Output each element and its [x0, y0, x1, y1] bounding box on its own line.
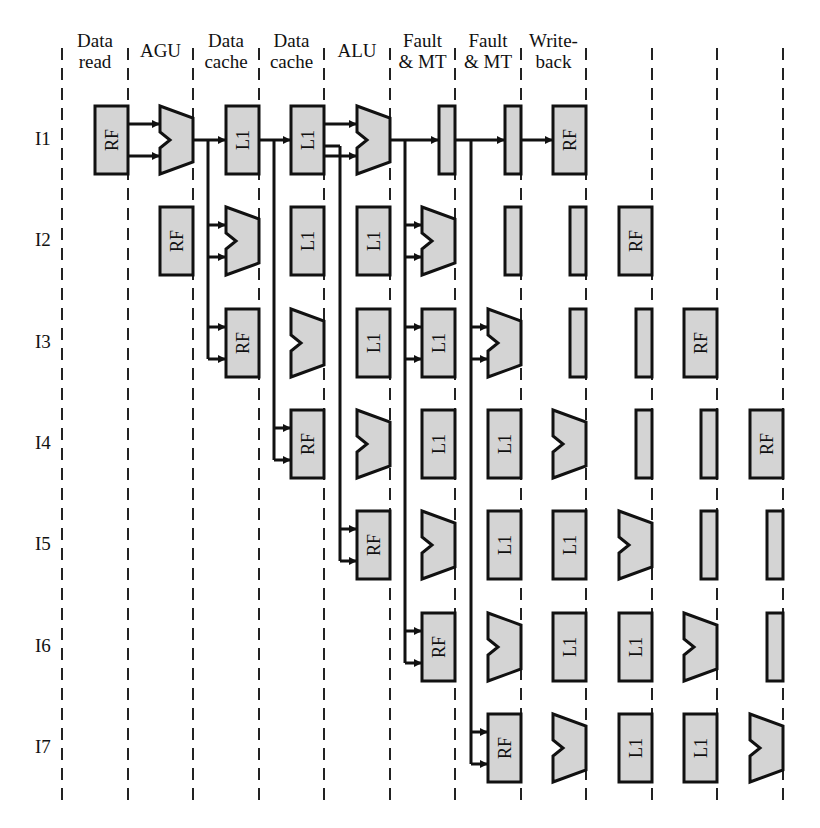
- alu-block: [750, 714, 783, 782]
- l1-cache-block: L1: [422, 309, 455, 377]
- stage-header-line2: back: [515, 51, 592, 72]
- pipeline-register-block: [701, 511, 717, 579]
- instruction-label-i7: I7: [35, 736, 51, 758]
- pipeline-register-block: [439, 106, 455, 174]
- l1-cache-block: L1: [291, 207, 324, 275]
- pipeline-register-block: [505, 106, 521, 174]
- l1-cache-block: L1: [422, 410, 455, 478]
- block-label: L1: [560, 535, 580, 555]
- instruction-label-i3: I3: [35, 331, 51, 353]
- pipeline-graphics: RFL1L1RFRFL1L1RFRFL1L1RFRFL1L1RFRFL1L1RF…: [0, 0, 820, 828]
- register-file-block: RF: [422, 613, 455, 681]
- stage-header-write-back: Write-back: [515, 30, 592, 72]
- instruction-label-i2: I2: [35, 229, 51, 251]
- register-file-block: RF: [291, 410, 324, 478]
- alu-block: [553, 714, 586, 782]
- pipeline-register-block: [636, 410, 652, 478]
- pipeline-register-block: [701, 410, 717, 478]
- instruction-label-i6: I6: [35, 635, 51, 657]
- block-label: L1: [298, 231, 318, 251]
- alu-block: [553, 410, 586, 478]
- alu-block: [357, 106, 390, 174]
- alu-block: [357, 410, 390, 478]
- block-label: L1: [626, 637, 646, 657]
- register-file-block: RF: [750, 410, 783, 478]
- l1-cache-block: L1: [619, 714, 652, 782]
- block-label: RF: [626, 230, 646, 252]
- pipeline-register-block: [636, 309, 652, 377]
- block-label: RF: [495, 737, 515, 759]
- block-label: RF: [233, 332, 253, 354]
- l1-cache-block: L1: [488, 410, 521, 478]
- l1-cache-block: L1: [619, 613, 652, 681]
- block-label: L1: [233, 130, 253, 150]
- block-label: RF: [560, 129, 580, 151]
- l1-cache-block: L1: [357, 309, 390, 377]
- alu-block: [226, 207, 259, 275]
- block-label: RF: [429, 636, 449, 658]
- register-file-block: RF: [357, 511, 390, 579]
- pipeline-diagram: DatareadAGUDatacacheDatacacheALUFault& M…: [0, 0, 820, 828]
- l1-cache-block: L1: [553, 613, 586, 681]
- block-label: RF: [102, 129, 122, 151]
- alu-block: [160, 106, 193, 174]
- register-file-block: RF: [619, 207, 652, 275]
- register-file-block: RF: [488, 714, 521, 782]
- block-label: L1: [364, 231, 384, 251]
- block-label: RF: [167, 230, 187, 252]
- block-label: L1: [560, 637, 580, 657]
- alu-block: [684, 613, 717, 681]
- instruction-label-i5: I5: [35, 533, 51, 555]
- l1-cache-block: L1: [553, 511, 586, 579]
- block-label: RF: [691, 332, 711, 354]
- l1-cache-block: L1: [291, 106, 324, 174]
- register-file-block: RF: [160, 207, 193, 275]
- block-label: L1: [429, 434, 449, 454]
- block-label: L1: [495, 434, 515, 454]
- alu-block: [422, 511, 455, 579]
- block-label: RF: [757, 433, 777, 455]
- stage-header-line1: Write-: [515, 30, 592, 51]
- block-label: L1: [626, 738, 646, 758]
- block-label: RF: [364, 534, 384, 556]
- register-file-block: RF: [684, 309, 717, 377]
- alu-block: [291, 309, 324, 377]
- block-label: L1: [364, 333, 384, 353]
- register-file-block: RF: [226, 309, 259, 377]
- pipeline-register-block: [767, 613, 783, 681]
- alu-block: [619, 511, 652, 579]
- block-label: L1: [495, 535, 515, 555]
- pipeline-register-block: [767, 511, 783, 579]
- l1-cache-block: L1: [357, 207, 390, 275]
- l1-cache-block: L1: [684, 714, 717, 782]
- instruction-label-i1: I1: [35, 128, 51, 150]
- alu-block: [488, 309, 521, 377]
- alu-block: [422, 207, 455, 275]
- pipeline-register-block: [505, 207, 521, 275]
- pipeline-blocks: RFL1L1RFRFL1L1RFRFL1L1RFRFL1L1RFRFL1L1RF…: [95, 106, 783, 782]
- instruction-label-i4: I4: [35, 432, 51, 454]
- block-label: L1: [691, 738, 711, 758]
- alu-block: [488, 613, 521, 681]
- pipeline-register-block: [570, 309, 586, 377]
- pipeline-register-block: [570, 207, 586, 275]
- register-file-block: RF: [553, 106, 586, 174]
- block-label: RF: [298, 433, 318, 455]
- l1-cache-block: L1: [488, 511, 521, 579]
- block-label: L1: [298, 130, 318, 150]
- l1-cache-block: L1: [226, 106, 259, 174]
- block-label: L1: [429, 333, 449, 353]
- register-file-block: RF: [95, 106, 128, 174]
